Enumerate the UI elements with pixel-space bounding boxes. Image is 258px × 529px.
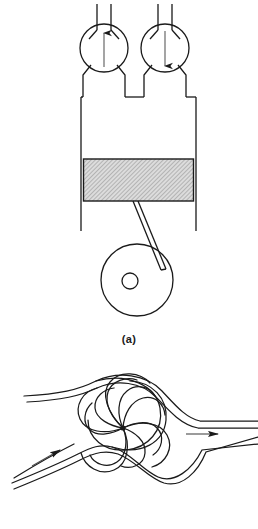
connecting-rod-right-edge [138,201,166,269]
exhaust-throat-upper-left [150,30,158,39]
panel-a-caption: (a) [0,333,258,345]
inlet-wall-upper [14,444,74,478]
exhaust-neck-right [178,65,186,97]
figure-page: (a) [0,0,258,529]
vortex-loop-outer-b [112,381,166,450]
connecting-rod-left-edge [133,201,161,270]
connecting-rod [133,201,166,270]
vortex-loop-outer-a [88,378,161,450]
inlet-flow-arrow-icon [32,450,60,466]
panel-vortex-flow: (c) [0,358,258,529]
intake-throat-upper-left [89,30,97,39]
intake-neck-right [117,65,125,97]
engine-diagram-svg [0,0,258,355]
streamline-lower-second [14,437,258,489]
intake-neck-left [83,65,91,97]
spiral-arm-outer-1 [106,374,150,428]
crankshaft-disc [101,244,173,316]
exhaust-throat-upper-right [172,30,180,39]
connecting-rod-big-end-cap [161,269,166,270]
piston-block [84,159,194,201]
crank-journal-bore [122,273,138,289]
exhaust-neck-left [144,65,152,97]
panel-engine-cylinder: (a) [0,0,258,355]
vortex-core-node [120,425,125,430]
vortex-flow-svg [0,358,258,529]
intake-throat-upper-right [111,30,119,39]
